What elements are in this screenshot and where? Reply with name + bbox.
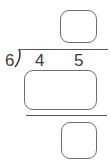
quotient-answer-box[interactable] (60, 10, 97, 43)
product-answer-box[interactable] (24, 70, 97, 110)
division-bar (19, 49, 108, 50)
remainder-answer-box[interactable] (61, 122, 97, 159)
subtraction-line (26, 115, 107, 116)
division-bracket-icon (14, 49, 22, 69)
dividend-digit-ones: 5 (74, 52, 83, 69)
dividend-digit-tens: 4 (35, 52, 44, 69)
